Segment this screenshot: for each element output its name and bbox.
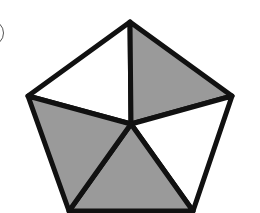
pentagon-figure — [0, 0, 260, 213]
